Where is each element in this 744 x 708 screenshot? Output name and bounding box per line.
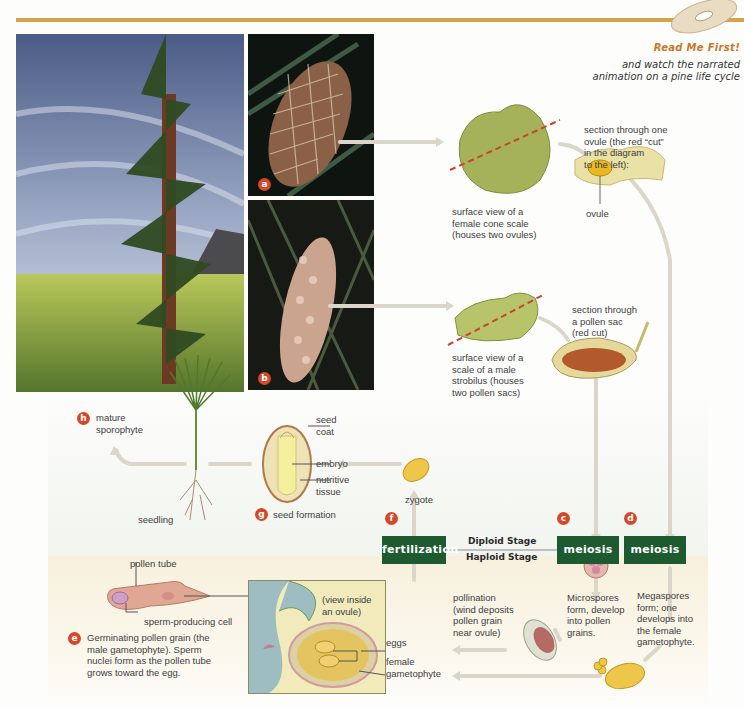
label-megaspores: Megasporesform; onedevelops intothe fema… (637, 590, 695, 648)
meiosis-box-c: meiosis (557, 536, 619, 564)
badge-h: h (77, 412, 90, 425)
badge-f: f (385, 512, 398, 525)
label-pollen-sac-section: section througha pollen sac(red cut) (572, 304, 637, 339)
label-view-inside: (view insidean ovule) (322, 594, 372, 617)
label-mature-sporophyte: maturesporophyte (96, 412, 143, 435)
badge-d: d (624, 512, 637, 525)
label-male-scale: surface view of ascale of a malestrobilu… (452, 352, 524, 398)
haploid-stage-label: Haploid Stage (466, 552, 537, 562)
label-eggs: eggs (386, 637, 407, 649)
label-pollination: pollination(wind depositspollen grainnea… (453, 592, 514, 638)
label-sperm-cell: sperm-producing cell (144, 616, 232, 628)
badge-g: g (255, 508, 268, 521)
label-seedling: seedling (138, 514, 173, 526)
label-ovule: ovule (586, 208, 609, 220)
label-ovule-section: section through oneovule (the red “cut”i… (584, 124, 667, 170)
label-seed-coat: seedcoat (316, 414, 337, 437)
badge-e: e (68, 632, 81, 645)
label-female-gametophyte: femalegametophyte (386, 656, 441, 679)
label-microspores: Microsporesform, developinto pollengrain… (567, 592, 625, 638)
label-zygote: zygote (405, 494, 433, 506)
label-seed-formation: seed formation (273, 509, 336, 521)
diploid-stage-label: Diploid Stage (468, 536, 536, 546)
label-germinating-pollen: Germinating pollen grain (themale gameto… (87, 632, 211, 678)
label-pollen-tube: pollen tube (130, 558, 176, 570)
label-female-scale: surface view of afemale cone scale(house… (452, 206, 536, 241)
label-embryo: embryo (316, 458, 348, 470)
label-nutritive-tissue: nutritivetissue (316, 474, 349, 497)
badge-c: c (557, 512, 570, 525)
meiosis-box-d: meiosis (624, 536, 686, 564)
fertilization-box: fertilization (382, 536, 446, 564)
